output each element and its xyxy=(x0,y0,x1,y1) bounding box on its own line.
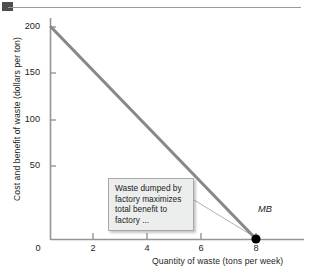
callout-annotation: Waste dumped by factory maximizes total … xyxy=(108,178,194,231)
chart-figure: Cost and benefit of waste (dollars per t… xyxy=(0,0,309,275)
x-tick-label-4: 4 xyxy=(137,243,157,253)
x-tick-label-6: 6 xyxy=(191,243,211,253)
y-tick-label-200: 200 xyxy=(10,21,40,31)
x-tick-label-8: 8 xyxy=(246,243,266,253)
x-axis-title: Quantity of waste (tons per week) xyxy=(152,256,283,266)
y-tick-marks xyxy=(51,27,57,166)
chart-canvas xyxy=(0,0,309,275)
y-tick-label-100: 100 xyxy=(10,114,40,124)
x-tick-label-2: 2 xyxy=(83,243,103,253)
y-tick-label-150: 150 xyxy=(10,67,40,77)
y-tick-label-50: 50 xyxy=(10,160,40,170)
x-tick-label-0: 0 xyxy=(28,243,48,253)
mb-curve-label: MB xyxy=(258,204,272,214)
x-tick-marks xyxy=(93,233,256,240)
